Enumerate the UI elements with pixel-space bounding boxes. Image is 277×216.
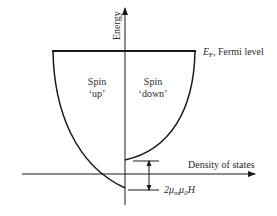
spin-down-dos-curve: [125, 51, 195, 160]
spin-up-label-line2: ‘up’: [89, 88, 106, 99]
splitting-suffix: H: [187, 184, 196, 195]
spin-up-label-line1: Spin: [88, 76, 106, 87]
fermi-text: , Fermi level: [213, 46, 264, 57]
spin-down-label-line2: ‘down’: [139, 88, 168, 99]
splitting-prefix: 2μ: [164, 184, 174, 195]
density-axis-label: Density of states: [188, 159, 255, 170]
spin-up-dos-curve: [53, 51, 125, 188]
fermi-symbol: E: [202, 46, 209, 57]
spin-split-dos-diagram: Energy EF, Fermi level Spin ‘up’ Spin ‘d…: [0, 0, 277, 216]
splitting-label: 2μmμ0H: [164, 184, 196, 197]
fermi-level-label: EF, Fermi level: [202, 46, 264, 59]
spin-down-label-line1: Spin: [144, 76, 162, 87]
energy-axis-label: Energy: [111, 11, 122, 40]
